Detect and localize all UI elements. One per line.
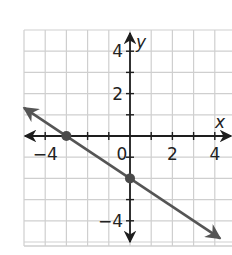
x-tick-label: 0: [117, 144, 128, 164]
x-tick-label: 4: [209, 144, 220, 164]
y-axis-label: y: [135, 32, 147, 52]
y-tick-label: 4: [112, 41, 123, 61]
y-tick-label: 2: [112, 84, 123, 104]
grid-lines: [24, 30, 232, 246]
coordinate-graph: −402442−4 x y: [0, 0, 232, 255]
x-tick-label: 2: [167, 144, 178, 164]
x-axis-label: x: [214, 112, 226, 132]
data-point: [61, 131, 71, 141]
x-tick-label: −4: [33, 144, 58, 164]
y-tick-label: −4: [98, 211, 123, 231]
data-point: [125, 173, 135, 183]
axes: [25, 33, 231, 242]
